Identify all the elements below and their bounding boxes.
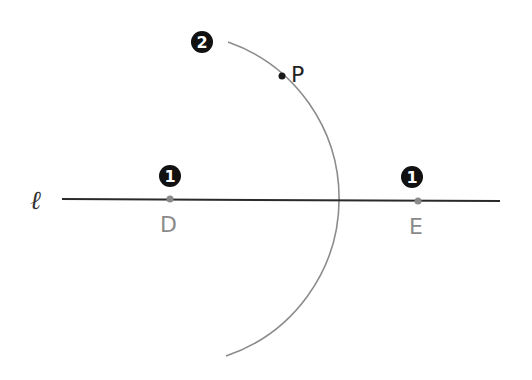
line-l (62, 199, 500, 201)
step-marker-1-e: 1 (401, 166, 423, 188)
svg-text:1: 1 (406, 168, 417, 187)
point-p-label: P (291, 62, 304, 87)
point-d (167, 196, 174, 203)
point-d-label: D (160, 212, 177, 237)
point-e-label: E (409, 214, 423, 239)
step-marker-1-d: 1 (159, 165, 181, 187)
point-p (279, 73, 286, 80)
point-e (415, 198, 422, 205)
svg-text:2: 2 (196, 33, 207, 52)
step-marker-2: 2 (191, 31, 213, 53)
line-l-label: ℓ (30, 185, 41, 215)
construction-diagram: ℓ D E P 2 1 1 (0, 0, 532, 380)
svg-text:1: 1 (164, 167, 175, 186)
